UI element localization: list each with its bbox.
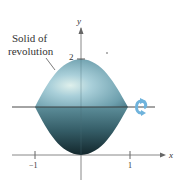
solid-top-half [35,59,128,107]
y-tick-label-2: 2 [69,52,74,62]
annotation-leader-line [46,58,55,70]
annotation-line2: revolution [8,45,54,57]
x-axis-label: x [168,150,173,160]
solid-of-revolution-diagram: x y −1 1 2 Solid of revolution [0,0,177,190]
y-axis-label: y [76,16,81,26]
x-tick-label-neg1: −1 [29,161,38,170]
x-tick-label-1: 1 [128,161,132,170]
solid-bottom-half [35,107,128,155]
annotation-line1: Solid of [12,32,47,44]
